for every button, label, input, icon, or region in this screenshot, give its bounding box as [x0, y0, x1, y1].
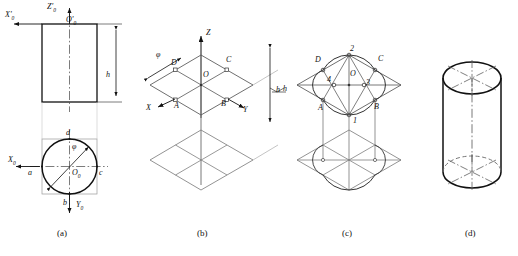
- panel-c-label-d: D: [315, 55, 321, 64]
- panel-b-isometric-axes: [148, 36, 284, 190]
- origin-point-o-c: [348, 84, 351, 87]
- bottom-arc-center-right: [373, 158, 376, 161]
- panel-c-label-h: h: [276, 85, 280, 94]
- panel-b-label-b: B: [221, 99, 226, 108]
- point-marker-d: [69, 138, 71, 140]
- panel-a-label-h: h: [106, 70, 110, 79]
- panel-d-finished-cylinder: [443, 60, 501, 190]
- extension-line-h-bottom: [253, 145, 278, 160]
- extension-line-h-top: [253, 70, 278, 85]
- panel-a-label-d: d: [66, 128, 70, 137]
- bottom-arc-center-left: [321, 158, 324, 161]
- arc-center-4: [332, 83, 336, 87]
- panel-c-label-2: 2: [350, 44, 354, 53]
- point-marker-c: [96, 166, 98, 168]
- panel-caption-c: (c): [342, 228, 352, 238]
- panel-b-label-phi: φ: [156, 50, 160, 59]
- point-marker-b: [69, 193, 71, 195]
- panel-caption-a: (a): [57, 228, 67, 238]
- isometric-axis-y: [228, 99, 244, 108]
- origin-point-o: [200, 84, 202, 86]
- panel-c-label-b: B: [374, 102, 379, 111]
- panel-a-label-x0-prime: X'0: [5, 10, 14, 21]
- isometric-axis-x: [158, 99, 175, 107]
- panel-b-label-z: Z: [206, 28, 210, 37]
- panel-b-label-o: O: [203, 70, 209, 79]
- panel-a-orthographic-views: [14, 8, 122, 213]
- engineering-drawing-figure: [0, 0, 518, 256]
- panel-b-label-x: X: [146, 103, 151, 112]
- panel-a-label-a: a: [28, 168, 32, 177]
- panel-a-label-phi: φ: [72, 142, 76, 151]
- panel-a-label-o0-prime: O'0: [66, 15, 76, 26]
- panel-b-label-c: C: [226, 55, 231, 64]
- panel-a-label-y0: Y0: [76, 200, 83, 211]
- panel-c-four-centre-construction: [272, 53, 401, 190]
- panel-c-label-a: A: [318, 103, 323, 112]
- panel-b-label-h: h: [283, 84, 287, 93]
- panel-c-label-o: O: [350, 69, 356, 78]
- panel-a-label-x0: X0: [8, 155, 16, 166]
- panel-a-label-z0-prime: Z'0: [47, 2, 56, 13]
- tangent-point-c: [225, 68, 229, 72]
- panel-caption-d: (d): [465, 228, 476, 238]
- panel-c-label-3: 3: [366, 78, 370, 87]
- panel-a-label-c: c: [99, 168, 103, 177]
- panel-a-label-b: b: [63, 198, 67, 207]
- panel-a-label-o0: O0: [72, 168, 81, 179]
- point-marker-a: [41, 166, 43, 168]
- panel-caption-b: (b): [197, 228, 208, 238]
- panel-b-label-y: Y: [243, 105, 247, 114]
- panel-c-label-c: C: [378, 54, 383, 63]
- panel-c-label-4: 4: [327, 75, 331, 84]
- panel-b-label-a: A: [174, 101, 179, 110]
- panel-b-label-d: D: [171, 58, 177, 67]
- tangent-point-d: [174, 68, 178, 72]
- panel-c-label-1: 1: [353, 116, 357, 125]
